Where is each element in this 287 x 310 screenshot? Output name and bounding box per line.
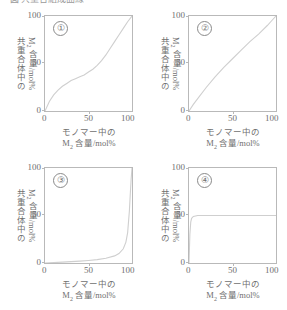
- y-axis-title-line1: 共重合体中の: [14, 37, 26, 91]
- chart-grid: 共重合体中の M2 含量/mol% ① 0 50 100 0 50 100 モノ…: [0, 3, 287, 310]
- x-tick-label-0: 0: [186, 266, 191, 275]
- plot-area-2: ② 0 50 100 0 50 100: [188, 15, 277, 112]
- chart-panel-2: 共重合体中の M2 含量/mol% ② 0 50 100 0 50 100 モノ…: [143, 3, 287, 155]
- y-tick-label-50: 50: [32, 58, 41, 67]
- curve-container-3: [45, 168, 132, 263]
- x-axis-title-3: モノマー中の M2 含量/mol%: [30, 279, 148, 305]
- curve-svg-1: [45, 16, 132, 111]
- y-tick-label-0: 0: [37, 258, 42, 267]
- x-axis-title-line2: M2 含量/mol%: [30, 138, 148, 153]
- y-tick-label-0: 0: [181, 106, 186, 115]
- curve-container-1: [45, 16, 132, 111]
- y-axis-title-line1: 共重合体中の: [14, 189, 26, 243]
- x-tick-label-50: 50: [84, 266, 93, 275]
- y-tick-label-50: 50: [176, 58, 185, 67]
- x-axis-title-line1: モノマー中の: [30, 127, 148, 138]
- x-tick-label-50: 50: [228, 266, 237, 275]
- y-axis-title-line1: 共重合体中の: [158, 189, 170, 243]
- chart-panel-1: 共重合体中の M2 含量/mol% ① 0 50 100 0 50 100 モノ…: [0, 3, 143, 155]
- x-axis-title-line2: M2 含量/mol%: [174, 138, 287, 153]
- curve-2: [189, 16, 276, 111]
- x-tick-label-100: 100: [121, 266, 135, 275]
- x-axis-title-line1: モノマー中の: [30, 279, 148, 290]
- curve-4: [189, 216, 276, 264]
- x-tick-label-50: 50: [228, 114, 237, 123]
- y-tick-label-100: 100: [28, 11, 42, 20]
- y-tick-label-100: 100: [172, 11, 186, 20]
- y-tick-label-0: 0: [181, 258, 186, 267]
- x-axis-title-1: モノマー中の M2 含量/mol%: [30, 127, 148, 153]
- x-axis-title-2: モノマー中の M2 含量/mol%: [174, 127, 287, 153]
- chart-panel-4: 共重合体中の M2 含量/mol% ④ 0 50 100 0 50 100 モノ…: [143, 155, 287, 310]
- x-axis-title-4: モノマー中の M2 含量/mol%: [174, 279, 287, 305]
- curve-svg-3: [45, 168, 132, 263]
- curve-container-2: [189, 16, 276, 111]
- curve-3: [45, 168, 132, 263]
- y-tick-label-50: 50: [176, 210, 185, 219]
- x-axis-title-line1: モノマー中の: [174, 127, 287, 138]
- y-tick-label-100: 100: [28, 163, 42, 172]
- x-axis-title-line2: M2 含量/mol%: [174, 290, 287, 305]
- y-tick-label-0: 0: [37, 106, 42, 115]
- x-tick-label-100: 100: [265, 266, 279, 275]
- x-tick-label-0: 0: [186, 114, 191, 123]
- x-tick-label-100: 100: [121, 114, 135, 123]
- x-tick-label-50: 50: [84, 114, 93, 123]
- y-axis-title-line1: 共重合体中の: [158, 37, 170, 91]
- x-axis-title-line2: M2 含量/mol%: [30, 290, 148, 305]
- curve-svg-2: [189, 16, 276, 111]
- plot-area-1: ① 0 50 100 0 50 100: [44, 15, 133, 112]
- x-axis-title-line1: モノマー中の: [174, 279, 287, 290]
- plot-area-4: ④ 0 50 100 0 50 100: [188, 167, 277, 264]
- curve-svg-4: [189, 168, 276, 263]
- y-tick-label-50: 50: [32, 210, 41, 219]
- x-tick-label-100: 100: [265, 114, 279, 123]
- curve-container-4: [189, 168, 276, 263]
- curve-1: [45, 16, 132, 111]
- plot-area-3: ③ 0 50 100 0 50 100: [44, 167, 133, 264]
- x-tick-label-0: 0: [42, 114, 47, 123]
- y-tick-label-100: 100: [172, 163, 186, 172]
- x-tick-label-0: 0: [42, 266, 47, 275]
- chart-panel-3: 共重合体中の M2 含量/mol% ③ 0 50 100 0 50 100 モノ…: [0, 155, 143, 310]
